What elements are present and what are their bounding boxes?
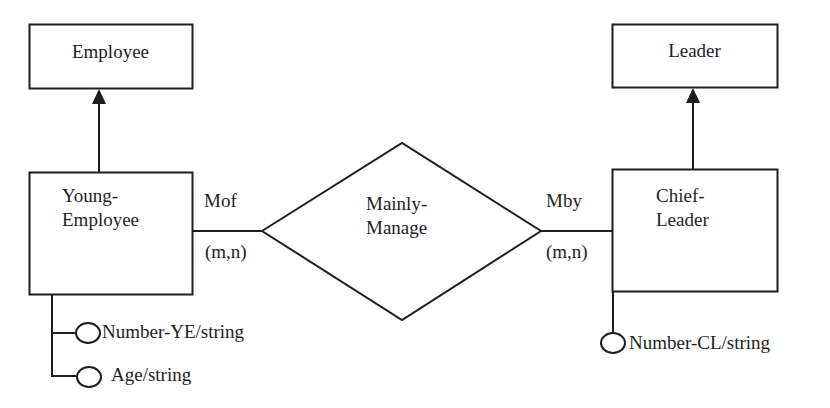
young-employee-label-line1: Young-: [62, 184, 139, 208]
number-cl-attribute-circle-icon: [601, 333, 625, 353]
number-ye-attribute-circle-icon: [76, 323, 100, 343]
number-cl-attribute-label: Number-CL/string: [629, 331, 770, 355]
age-attribute-label: Age/string: [111, 363, 191, 387]
young-employee-arrowhead-icon: [92, 89, 106, 104]
mby-role-label: Mby: [546, 189, 582, 213]
relationship-label-line1: Mainly-: [366, 192, 427, 216]
chief-leader-label-line1: Chief-: [656, 184, 709, 208]
employee-entity-label: Employee: [29, 40, 192, 64]
relationship-label-line2: Manage: [366, 216, 427, 240]
chief-leader-arrowhead-icon: [686, 88, 700, 103]
relationship-label: Mainly- Manage: [366, 192, 427, 240]
mby-cardinality-label: (m,n): [546, 240, 588, 264]
chief-leader-label-line2: Leader: [656, 208, 709, 232]
mof-cardinality-label: (m,n): [205, 240, 247, 264]
age-attribute-circle-icon: [77, 367, 101, 387]
leader-entity-label: Leader: [612, 39, 777, 63]
number-ye-attribute-label: Number-YE/string: [102, 320, 244, 344]
young-employee-label-line2: Employee: [62, 208, 139, 232]
chief-leader-entity-label: Chief- Leader: [656, 184, 709, 232]
young-employee-attribute-stem: [52, 294, 76, 376]
young-employee-entity-label: Young- Employee: [62, 184, 139, 232]
mof-role-label: Mof: [204, 189, 237, 213]
